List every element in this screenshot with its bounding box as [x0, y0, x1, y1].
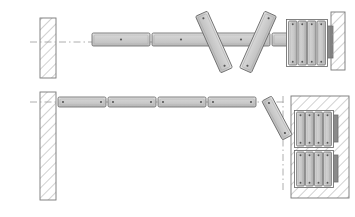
panel-center-dot: [180, 38, 182, 40]
panel-center-dot: [300, 114, 302, 116]
panel-center-dot: [112, 101, 114, 103]
panel-center-dot: [327, 154, 329, 156]
lower-view-left-wall-tall-hatch: [40, 92, 56, 200]
panel-stack-upper-panel[interactable]: [317, 21, 325, 65]
panel-stack-lower-upper-panel[interactable]: [297, 112, 305, 146]
panel-stack-lower-upper-panel[interactable]: [315, 112, 323, 146]
panel-l2[interactable]: [108, 97, 156, 107]
panel-stack-upper-panel[interactable]: [308, 21, 316, 65]
panel-stack-lower-lower-panel[interactable]: [324, 152, 332, 186]
panel-center-dot: [300, 182, 302, 184]
panel-stack-lower-lower-panel[interactable]: [315, 152, 323, 186]
panel-center-dot: [150, 101, 152, 103]
panel-center-dot: [318, 154, 320, 156]
panel-center-dot: [318, 142, 320, 144]
tilted-panel-l5[interactable]: [262, 96, 292, 140]
diagram-canvas: [0, 0, 355, 217]
panel-center-dot: [327, 142, 329, 144]
panel-center-dot: [250, 101, 252, 103]
panel-center-dot: [311, 61, 313, 63]
panel-center-dot: [300, 142, 302, 144]
panel-stack-upper-panel[interactable]: [298, 21, 306, 65]
upper-view-left-wall-hatch: [40, 18, 56, 78]
drawing-layer: [30, 11, 349, 200]
panel-l3[interactable]: [158, 97, 206, 107]
panel-center-dot: [240, 38, 242, 40]
panel-center-dot: [62, 101, 64, 103]
panel-center-dot: [300, 154, 302, 156]
panel-center-dot: [327, 114, 329, 116]
panel-center-dot: [212, 101, 214, 103]
panel-center-dot: [327, 182, 329, 184]
panel-stack-lower-lower-panel[interactable]: [306, 152, 314, 186]
panel-center-dot: [292, 23, 294, 25]
panel-center-dot: [309, 114, 311, 116]
panel-center-dot: [200, 101, 202, 103]
panel-center-dot: [120, 38, 122, 40]
upper-view-right-wall-hatch: [331, 12, 345, 70]
tilted-panel-l5-group[interactable]: [262, 96, 292, 140]
panel-center-dot: [162, 101, 164, 103]
panel-center-dot: [320, 61, 322, 63]
panel-stack-lower-lower-panel[interactable]: [297, 152, 305, 186]
partition-plan-drawing: [0, 0, 355, 217]
panel-center-dot: [309, 142, 311, 144]
panel-center-dot: [100, 101, 102, 103]
panel-center-dot: [309, 154, 311, 156]
panel-center-dot: [320, 23, 322, 25]
panel-stack-upper-panel[interactable]: [289, 21, 297, 65]
panel-center-dot: [311, 23, 313, 25]
panel-stack-lower-upper-panel[interactable]: [306, 112, 314, 146]
panel-l4[interactable]: [208, 97, 256, 107]
panel-center-dot: [318, 114, 320, 116]
panel-center-dot: [309, 182, 311, 184]
panel-l1[interactable]: [58, 97, 106, 107]
panel-stack-lower-upper-panel[interactable]: [324, 112, 332, 146]
panel-center-dot: [301, 61, 303, 63]
panel-center-dot: [301, 23, 303, 25]
panel-center-dot: [318, 182, 320, 184]
panel-center-dot: [292, 61, 294, 63]
